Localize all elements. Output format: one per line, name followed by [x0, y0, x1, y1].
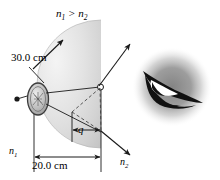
eye-blur-halo: [132, 47, 212, 127]
medium-transmitted-label: n2: [120, 157, 128, 170]
object-distance-label: 20.0 cm: [32, 160, 67, 171]
semicircular-medium-n1: [37, 20, 101, 148]
refracted-ray-lower: [101, 131, 130, 155]
refracted-ray-upper: [99, 44, 130, 86]
radius-label: 30.0 cm: [11, 52, 46, 63]
figure-canvas: [0, 0, 220, 180]
index-relation-label: n1 > n2: [56, 8, 87, 22]
medium-incident-label: n1: [9, 146, 17, 159]
refraction-figure: n1 > n2 30.0 cm 20.0 cm q n1 n2: [0, 0, 220, 180]
image-distance-label: q: [78, 124, 84, 135]
